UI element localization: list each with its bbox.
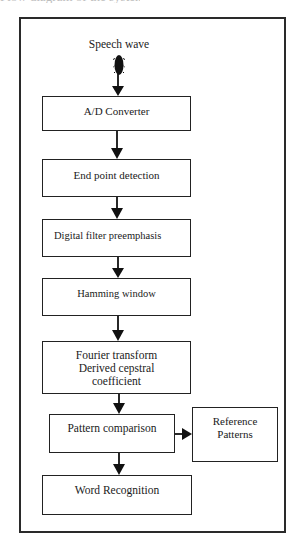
node-label: Pattern comparison: [50, 422, 174, 435]
speech-wave-label: Speech wave: [80, 38, 158, 50]
node-reference-patterns: Reference Patterns: [192, 407, 278, 462]
node-label: Word Recognition: [43, 484, 191, 497]
node-end-point-detection: End point detection: [42, 159, 191, 197]
node-label: Reference Patterns: [193, 415, 277, 441]
node-label: Hamming window: [43, 287, 190, 300]
node-pattern-comparison: Pattern comparison: [49, 414, 175, 453]
node-label: End point detection: [43, 169, 190, 182]
node-label: A/D Converter: [43, 105, 190, 118]
node-ad-converter: A/D Converter: [42, 96, 191, 131]
node-hamming-window: Hamming window: [42, 278, 191, 316]
cropped-caption-fragment: Flow diagram of the system: [0, 0, 140, 3]
node-label: Digital filter preemphasis: [54, 229, 190, 242]
node-label: Fourier transform Derived cepstral coeff…: [43, 349, 190, 388]
node-fourier-transform: Fourier transform Derived cepstral coeff…: [42, 341, 191, 394]
node-word-recognition: Word Recognition: [42, 475, 192, 515]
node-digital-filter-preemphasis: Digital filter preemphasis: [42, 219, 191, 257]
